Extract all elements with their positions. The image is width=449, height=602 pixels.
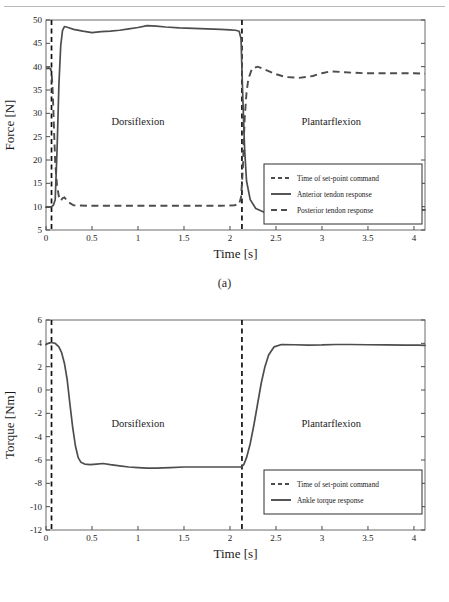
y-tick-label: 6 <box>38 315 43 325</box>
x-tick-label: 2.5 <box>270 233 282 243</box>
y-tick-label: 10 <box>33 202 43 212</box>
x-axis-title: Time [s] <box>214 546 258 561</box>
y-tick-label: 35 <box>33 85 43 95</box>
figure-page: 510152025303540455000.511.522.533.54Time… <box>0 0 449 602</box>
legend-label: Ankle torque response <box>297 496 364 505</box>
x-tick-label: 3 <box>320 533 325 543</box>
figure-b-torque: -12-10-8-6-4-2024600.511.522.533.54Time … <box>0 302 449 602</box>
x-tick-label: 3 <box>320 233 325 243</box>
x-tick-label: 2 <box>228 533 233 543</box>
y-axis-title: Torque [Nm] <box>2 391 17 459</box>
region-annotation: Plantarflexion <box>301 116 361 127</box>
force-chart-svg: 510152025303540455000.511.522.533.54Time… <box>0 8 449 268</box>
x-tick-label: 1 <box>136 533 141 543</box>
y-tick-label: 4 <box>38 338 43 348</box>
y-tick-label: -10 <box>30 502 42 512</box>
legend-label: Time of set-point command <box>297 480 379 489</box>
x-tick-label: 1 <box>136 233 141 243</box>
region-annotation: Dorsiflexion <box>111 418 165 429</box>
y-tick-label: 0 <box>38 385 43 395</box>
y-tick-label: 15 <box>33 178 43 188</box>
y-tick-label: 5 <box>38 225 43 235</box>
x-tick-label: 0.5 <box>86 533 98 543</box>
region-annotation: Dorsiflexion <box>111 116 165 127</box>
figure-a-force: 510152025303540455000.511.522.533.54Time… <box>0 8 449 300</box>
y-tick-label: 20 <box>33 155 43 165</box>
y-tick-label: 50 <box>33 15 43 25</box>
legend-label: Anterior tendon response <box>297 190 372 199</box>
x-tick-label: 2 <box>228 233 233 243</box>
data-series-solid <box>46 343 425 468</box>
x-tick-label: 4 <box>412 233 417 243</box>
legend-label: Time of set-point command <box>297 174 379 183</box>
page-top-rule <box>4 6 445 7</box>
y-tick-label: 25 <box>33 132 43 142</box>
x-axis-title: Time [s] <box>214 246 258 261</box>
x-tick-label: 2.5 <box>270 533 282 543</box>
y-tick-label: 45 <box>33 38 43 48</box>
region-annotation: Plantarflexion <box>301 418 361 429</box>
torque-chart-svg: -12-10-8-6-4-2024600.511.522.533.54Time … <box>0 302 449 570</box>
x-tick-label: 1.5 <box>178 533 190 543</box>
y-tick-label: 30 <box>33 108 43 118</box>
x-tick-label: 4 <box>412 533 417 543</box>
figure-a-caption: (a) <box>0 276 449 291</box>
legend-label: Posterior tendon response <box>297 206 374 215</box>
y-tick-label: -8 <box>35 478 43 488</box>
y-tick-label: -6 <box>35 455 43 465</box>
y-axis-title: Force [N] <box>2 100 17 151</box>
y-tick-label: -4 <box>35 432 43 442</box>
force-plot-area: 510152025303540455000.511.522.533.54Time… <box>0 8 449 300</box>
x-tick-label: 3.5 <box>362 533 374 543</box>
x-tick-label: 3.5 <box>362 233 374 243</box>
y-tick-label: -12 <box>30 525 42 535</box>
y-tick-label: 2 <box>38 362 43 372</box>
torque-plot-area: -12-10-8-6-4-2024600.511.522.533.54Time … <box>0 302 449 602</box>
x-tick-label: 0.5 <box>86 233 98 243</box>
x-tick-label: 0 <box>44 233 49 243</box>
chart-legend <box>264 470 422 514</box>
x-tick-label: 1.5 <box>178 233 190 243</box>
y-tick-label: -2 <box>35 408 43 418</box>
y-tick-label: 40 <box>33 62 43 72</box>
x-tick-label: 0 <box>44 533 49 543</box>
